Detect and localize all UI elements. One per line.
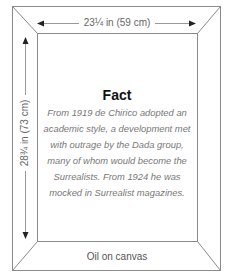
width-label: 23¼ in (59 cm) [79, 17, 156, 28]
width-label-wrap: 23¼ in (59 cm) [37, 16, 197, 30]
height-label-wrap: 28¾ in (73 cm) [18, 53, 32, 213]
medium-label: Oil on canvas [37, 250, 197, 264]
height-label: 28¾ in (73 cm) [19, 95, 30, 172]
bevel-top-right [198, 7, 221, 34]
bevel-top-left [13, 7, 38, 34]
arrow-down-icon [23, 232, 29, 239]
fact-text: From 1919 de Chirico adopted an academic… [40, 105, 194, 201]
arrow-up-icon [23, 37, 29, 44]
fact-title: Fact [37, 87, 197, 103]
bevel-bottom-left [13, 242, 38, 271]
bevel-bottom-right [198, 242, 221, 271]
